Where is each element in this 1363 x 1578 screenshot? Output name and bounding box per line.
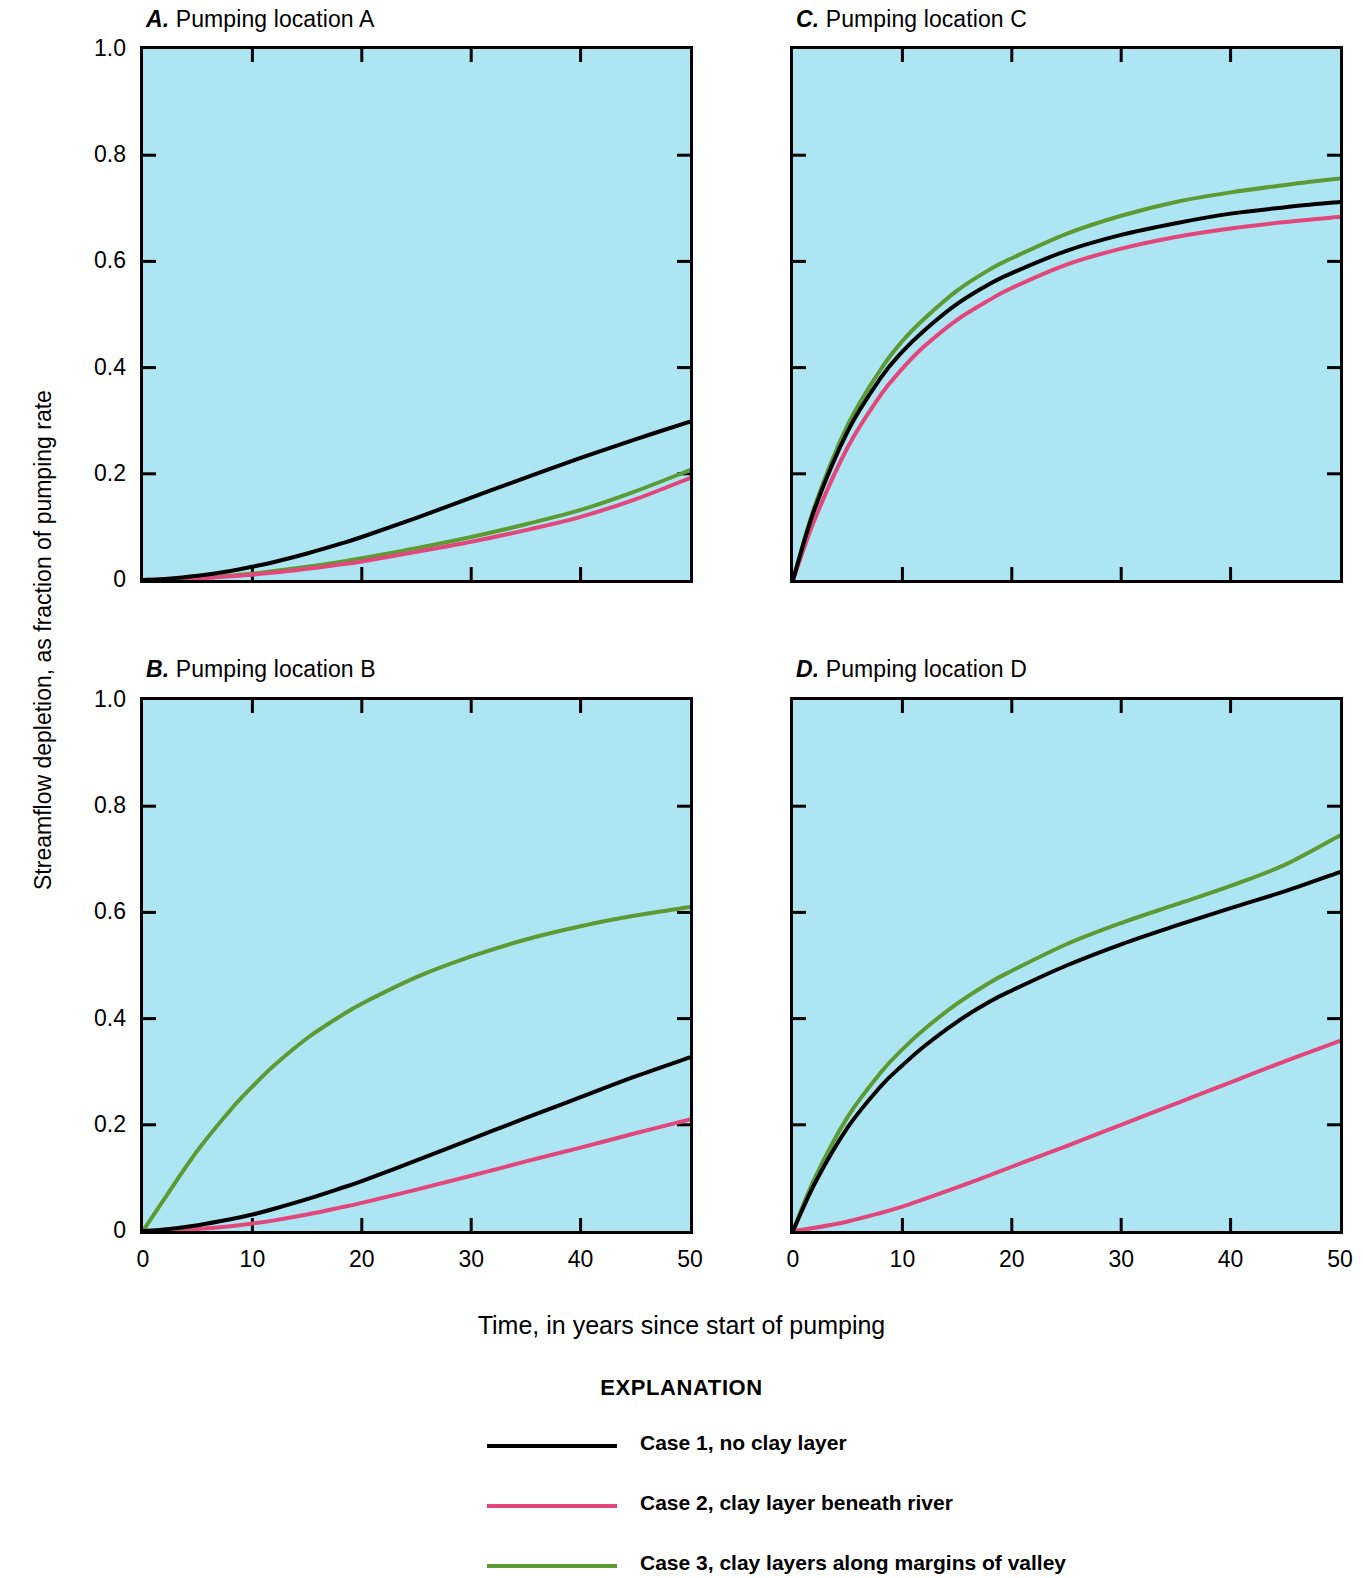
y-tick-label: 0.4 bbox=[64, 1005, 126, 1032]
series-line-c-case2 bbox=[793, 217, 1340, 580]
legend-line-swatch-case2 bbox=[487, 1504, 617, 1508]
x-tick-label: 40 bbox=[1191, 1246, 1271, 1273]
x-tick-label: 0 bbox=[753, 1246, 833, 1273]
series-line-c-case1 bbox=[793, 202, 1340, 580]
explanation-heading: EXPLANATION bbox=[0, 1375, 1363, 1401]
x-tick-label: 20 bbox=[972, 1246, 1052, 1273]
panel-letter-a: A. bbox=[146, 6, 169, 32]
chart-canvas-c bbox=[793, 49, 1340, 580]
x-tick-label: 0 bbox=[103, 1246, 183, 1273]
y-tick-label: 0 bbox=[64, 1217, 126, 1244]
panel-title-c: C. Pumping location C bbox=[796, 6, 1027, 33]
x-tick-label: 20 bbox=[322, 1246, 402, 1273]
series-line-b-case2 bbox=[143, 1119, 690, 1231]
plot-area-a bbox=[140, 46, 693, 583]
y-axis-label: Streamflow depletion, as fraction of pum… bbox=[30, 390, 57, 890]
y-tick-label: 0.8 bbox=[64, 792, 126, 819]
x-tick-label: 50 bbox=[650, 1246, 730, 1273]
panel-title-text-d: Pumping location D bbox=[826, 656, 1027, 682]
x-tick-label: 40 bbox=[541, 1246, 621, 1273]
chart-canvas-a bbox=[143, 49, 690, 580]
y-tick-label: 1.0 bbox=[64, 686, 126, 713]
y-tick-label: 0.2 bbox=[64, 460, 126, 487]
y-tick-label: 0.6 bbox=[64, 247, 126, 274]
panel-title-text-a: Pumping location A bbox=[176, 6, 375, 32]
legend-label-case3: Case 3, clay layers along margins of val… bbox=[640, 1551, 1066, 1575]
series-line-b-case1 bbox=[143, 1057, 690, 1231]
plot-area-d bbox=[790, 697, 1343, 1234]
x-tick-label: 50 bbox=[1300, 1246, 1363, 1273]
y-tick-label: 0.8 bbox=[64, 141, 126, 168]
x-tick-label: 30 bbox=[1081, 1246, 1161, 1273]
chart-canvas-d bbox=[793, 700, 1340, 1231]
y-tick-label: 0.4 bbox=[64, 354, 126, 381]
x-axis-label: Time, in years since start of pumping bbox=[0, 1311, 1363, 1340]
series-line-b-case3 bbox=[143, 907, 690, 1231]
legend-label-case1: Case 1, no clay layer bbox=[640, 1431, 847, 1455]
panel-letter-c: C. bbox=[796, 6, 819, 32]
legend-line-swatch-case1 bbox=[487, 1444, 617, 1448]
series-line-a-case2 bbox=[143, 478, 690, 580]
panel-title-d: D. Pumping location D bbox=[796, 656, 1027, 683]
y-tick-label: 0.6 bbox=[64, 898, 126, 925]
panel-title-a: A. Pumping location A bbox=[146, 6, 374, 33]
series-line-c-case3 bbox=[793, 179, 1340, 580]
y-tick-label: 1.0 bbox=[64, 35, 126, 62]
x-tick-label: 30 bbox=[431, 1246, 511, 1273]
y-tick-label: 0.2 bbox=[64, 1111, 126, 1138]
series-line-d-case2 bbox=[793, 1041, 1340, 1231]
x-tick-label: 10 bbox=[212, 1246, 292, 1273]
x-tick-label: 10 bbox=[862, 1246, 942, 1273]
legend-label-case2: Case 2, clay layer beneath river bbox=[640, 1491, 953, 1515]
chart-canvas-b bbox=[143, 700, 690, 1231]
series-line-a-case3 bbox=[143, 470, 690, 580]
series-line-d-case1 bbox=[793, 872, 1340, 1231]
y-tick-label: 0 bbox=[64, 566, 126, 593]
series-line-d-case3 bbox=[793, 835, 1340, 1231]
panel-title-text-b: Pumping location B bbox=[176, 656, 376, 682]
panel-title-b: B. Pumping location B bbox=[146, 656, 376, 683]
panel-letter-b: B. bbox=[146, 656, 169, 682]
plot-area-b bbox=[140, 697, 693, 1234]
legend-line-swatch-case3 bbox=[487, 1564, 617, 1568]
plot-area-c bbox=[790, 46, 1343, 583]
panel-letter-d: D. bbox=[796, 656, 819, 682]
panel-title-text-c: Pumping location C bbox=[826, 6, 1027, 32]
